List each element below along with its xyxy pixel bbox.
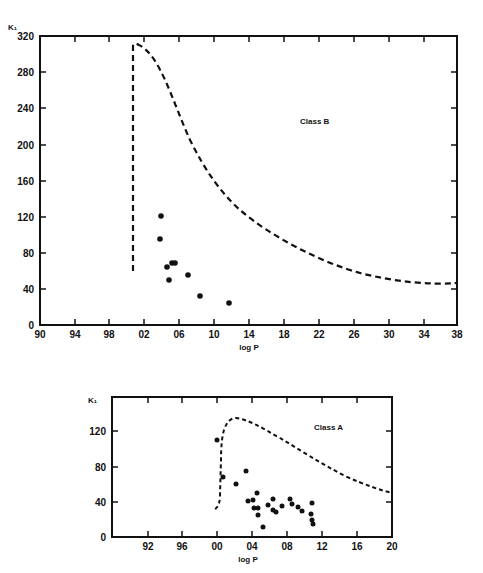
figure: K₁ 0 40 80 120 160 200 240 280 <box>0 0 483 573</box>
x-tick-label: 14 <box>243 329 255 340</box>
y-tick-label: 40 <box>23 284 35 295</box>
x-tick-label: 06 <box>173 329 185 340</box>
data-point <box>226 300 232 306</box>
y-tick-label: 240 <box>17 103 34 114</box>
y-axis: 0 40 80 120 <box>89 426 392 543</box>
data-point <box>274 510 279 515</box>
x-tick-label: 20 <box>386 541 398 552</box>
y-axis-label: K₁ <box>8 23 18 32</box>
y-tick-label: 280 <box>17 67 34 78</box>
boundary-curve-a <box>215 418 392 509</box>
class-b-points <box>157 213 232 306</box>
data-point <box>300 509 305 514</box>
plot-frame <box>112 397 392 537</box>
x-tick-label: 00 <box>211 541 223 552</box>
x-tick-label: 18 <box>278 329 290 340</box>
y-axis-label: K₁ <box>88 396 98 405</box>
x-axis-label: log P <box>238 555 258 564</box>
y-tick-label: 160 <box>17 176 34 187</box>
y-tick-label: 120 <box>17 212 34 223</box>
data-point <box>172 260 178 266</box>
data-point <box>251 498 256 503</box>
x-tick-label: 96 <box>176 541 188 552</box>
chart-class-a: K₁ 0 40 80 120 <box>88 396 398 564</box>
x-tick-label: 34 <box>418 329 430 340</box>
y-tick-label: 0 <box>100 532 106 543</box>
y-tick-label: 320 <box>17 31 34 42</box>
data-point <box>310 501 315 506</box>
x-tick-label: 12 <box>316 541 328 552</box>
data-point <box>255 491 260 496</box>
data-point <box>244 469 249 474</box>
x-tick-label: 98 <box>103 329 115 340</box>
y-tick-label: 40 <box>95 497 107 508</box>
data-point <box>166 277 172 283</box>
data-point <box>197 293 203 299</box>
data-point <box>246 499 251 504</box>
x-tick-label: 08 <box>281 541 293 552</box>
x-tick-label: 16 <box>351 541 363 552</box>
plot-frame <box>40 36 457 325</box>
x-tick-label: 90 <box>34 329 46 340</box>
x-tick-label: 10 <box>208 329 220 340</box>
chart-class-b: K₁ 0 40 80 120 160 200 240 280 <box>8 23 463 352</box>
x-tick-label: 38 <box>451 329 463 340</box>
data-point <box>290 502 295 507</box>
y-tick-label: 120 <box>89 426 106 437</box>
y-tick-label: 80 <box>95 462 107 473</box>
class-a-label: Class A <box>314 423 343 432</box>
data-point <box>215 438 220 443</box>
x-tick-label: 94 <box>69 329 81 340</box>
data-point <box>185 272 191 278</box>
data-point <box>288 497 293 502</box>
data-point <box>261 525 266 530</box>
data-point <box>311 522 316 527</box>
data-point <box>256 506 261 511</box>
data-point <box>221 475 226 480</box>
data-point <box>271 497 276 502</box>
x-tick-label: 22 <box>313 329 325 340</box>
x-tick-label: 26 <box>348 329 360 340</box>
data-point <box>164 264 170 270</box>
data-point <box>158 213 164 219</box>
data-point <box>309 512 314 517</box>
class-b-label: Class B <box>300 117 330 126</box>
data-point <box>157 236 163 242</box>
x-axis: 92 96 00 04 08 12 16 20 log P <box>142 397 398 564</box>
x-tick-label: 02 <box>138 329 150 340</box>
x-tick-label: 92 <box>142 541 154 552</box>
data-point <box>234 482 239 487</box>
y-axis: 0 40 80 120 160 200 240 280 320 <box>17 31 457 331</box>
data-point <box>256 513 261 518</box>
y-tick-label: 80 <box>23 248 35 259</box>
data-point <box>296 505 301 510</box>
x-axis: 90 94 98 02 06 10 14 18 22 26 30 34 38 l… <box>34 36 463 352</box>
data-point <box>280 504 285 509</box>
x-tick-label: 04 <box>246 541 258 552</box>
y-tick-label: 200 <box>17 140 34 151</box>
data-point <box>266 503 271 508</box>
boundary-curve-b <box>133 44 457 284</box>
x-axis-label: log P <box>239 343 259 352</box>
x-tick-label: 30 <box>383 329 395 340</box>
